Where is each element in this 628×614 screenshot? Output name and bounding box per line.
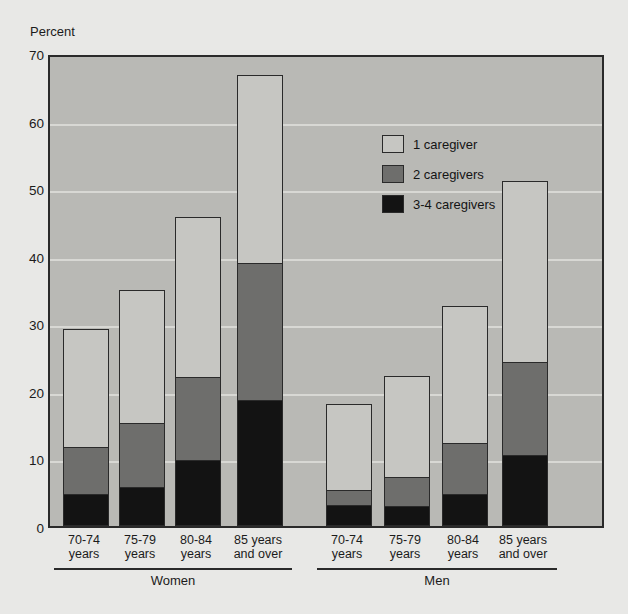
x-axis-category-label: 85 years and over xyxy=(487,534,559,561)
bar-segment-1-caregiver xyxy=(238,76,282,262)
y-axis-tick-40: 40 xyxy=(4,250,44,265)
legend-item: 2 caregivers xyxy=(382,159,552,189)
bar-segment-1-caregiver xyxy=(443,307,487,442)
x-axis-group-rule xyxy=(54,568,292,570)
x-axis-group-label-women: Women xyxy=(54,573,292,588)
legend-swatch-dark xyxy=(382,195,404,213)
legend-item-label: 3-4 caregivers xyxy=(413,197,495,212)
y-axis-tick-70: 70 xyxy=(4,48,44,63)
plot-area: 1 caregiver2 caregivers3-4 caregivers xyxy=(48,55,604,528)
legend-item-label: 2 caregivers xyxy=(413,167,484,182)
gridline-60 xyxy=(50,124,602,126)
bar-segment-2-caregivers xyxy=(238,263,282,400)
bar-segment-3-4-caregivers xyxy=(238,400,282,525)
bar-segment-1-caregiver xyxy=(385,377,429,477)
stacked-bar xyxy=(326,404,372,526)
x-axis-category-label: 85 years and over xyxy=(222,534,294,561)
y-axis-tick-50: 50 xyxy=(4,183,44,198)
stacked-bar xyxy=(237,75,283,526)
y-axis-tick-30: 30 xyxy=(4,318,44,333)
bar-segment-3-4-caregivers xyxy=(443,494,487,525)
bar-segment-2-caregivers xyxy=(176,377,220,460)
legend-item: 1 caregiver xyxy=(382,129,552,159)
legend: 1 caregiver2 caregivers3-4 caregivers xyxy=(382,129,552,219)
bar-segment-2-caregivers xyxy=(327,490,371,505)
x-axis-group-label-men: Men xyxy=(317,573,557,588)
chart-page: Percent 706050403020100 1 caregiver2 car… xyxy=(0,0,628,614)
legend-item-label: 1 caregiver xyxy=(413,137,477,152)
bar-segment-1-caregiver xyxy=(327,405,371,491)
y-axis: 706050403020100 xyxy=(0,0,44,614)
x-axis-group-rule xyxy=(317,568,557,570)
y-axis-tick-0: 0 xyxy=(4,521,44,536)
bar-segment-1-caregiver xyxy=(64,330,108,447)
bar-segment-3-4-caregivers xyxy=(176,460,220,525)
y-axis-tick-10: 10 xyxy=(4,453,44,468)
stacked-bar xyxy=(63,329,109,526)
bar-segment-1-caregiver xyxy=(120,291,164,423)
bar-segment-3-4-caregivers xyxy=(327,505,371,525)
bar-segment-3-4-caregivers xyxy=(503,455,547,525)
legend-item: 3-4 caregivers xyxy=(382,189,552,219)
stacked-bar xyxy=(175,217,221,526)
y-axis-tick-60: 60 xyxy=(4,115,44,130)
bar-segment-1-caregiver xyxy=(176,218,220,377)
bar-segment-3-4-caregivers xyxy=(120,487,164,525)
bar-segment-2-caregivers xyxy=(443,443,487,494)
y-axis-tick-20: 20 xyxy=(4,385,44,400)
bar-segment-2-caregivers xyxy=(385,477,429,506)
bar-segment-2-caregivers xyxy=(120,423,164,487)
bar-segment-2-caregivers xyxy=(64,447,108,494)
stacked-bar xyxy=(384,376,430,526)
legend-swatch-light xyxy=(382,135,404,153)
bar-segment-3-4-caregivers xyxy=(385,506,429,525)
stacked-bar xyxy=(502,181,548,526)
bar-segment-2-caregivers xyxy=(503,362,547,455)
stacked-bar xyxy=(442,306,488,526)
legend-swatch-gray xyxy=(382,165,404,183)
stacked-bar xyxy=(119,290,165,526)
bar-segment-3-4-caregivers xyxy=(64,494,108,525)
